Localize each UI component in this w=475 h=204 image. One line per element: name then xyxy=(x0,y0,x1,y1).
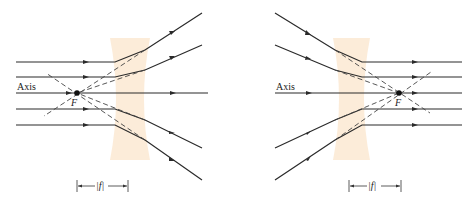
lens-right xyxy=(333,38,370,160)
focal-length-measure-right: |f| xyxy=(349,180,401,192)
focal-label-right: F xyxy=(394,97,402,108)
focal-label-left: F xyxy=(70,97,78,108)
right-panel: Axis F |f| xyxy=(275,13,462,192)
axis-label-right: Axis xyxy=(276,81,295,92)
svg-text:|f|: |f| xyxy=(96,180,104,191)
diverging-lens-diagrams: Axis F |f| xyxy=(0,0,475,204)
left-panel: Axis F |f| xyxy=(16,13,208,192)
focal-length-measure-left: |f| xyxy=(77,180,128,192)
focal-point-left xyxy=(74,90,80,96)
axis-label-left: Axis xyxy=(17,81,36,92)
svg-text:|f|: |f| xyxy=(368,180,376,191)
focal-point-right xyxy=(396,90,402,96)
